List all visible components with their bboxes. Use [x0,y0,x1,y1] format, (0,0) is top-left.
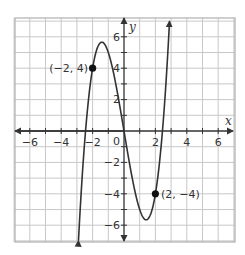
svg-text:−4: −4 [53,136,69,149]
svg-text:2: 2 [152,136,159,149]
svg-text:6: 6 [215,136,222,149]
svg-text:4: 4 [183,136,190,149]
svg-text:−2: −2 [84,136,100,149]
point-neg2-4 [89,65,96,72]
svg-text:−2: −2 [104,156,120,169]
svg-text:−6: −6 [104,219,120,232]
svg-text:−4: −4 [104,188,120,201]
svg-text:−6: −6 [22,136,38,149]
svg-text:6: 6 [113,31,120,44]
point-neg2-4-label: (−2, 4) [49,62,88,75]
point-2-neg4-label: (2, −4) [161,188,200,201]
y-axis-label: y [128,20,136,34]
point-2-neg4 [152,190,159,197]
x-axis-label: x [225,114,232,128]
graph: x y −6 −4 −2 2 4 6 0 6 4 2 −2 −4 −6 (−2,… [0,0,245,255]
origin-label: 0 [113,135,120,148]
